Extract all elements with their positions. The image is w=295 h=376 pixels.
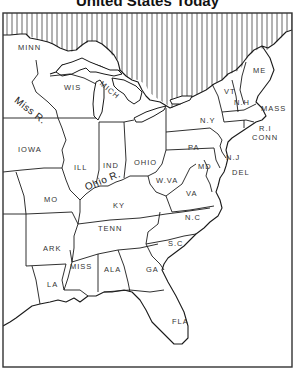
eastern-us-map <box>0 0 295 376</box>
state-label-me: ME <box>253 67 266 75</box>
state-label-mass: MASS <box>261 105 286 113</box>
state-label-ny: N.Y <box>200 117 216 125</box>
state-label-wva: W.VA <box>156 177 178 185</box>
state-label-ohio: OHIO <box>134 159 157 167</box>
state-label-fla: FLA <box>172 318 189 326</box>
state-label-minn: MINN <box>18 44 41 52</box>
canada-hatched-region <box>3 13 292 108</box>
state-label-ky: KY <box>113 202 125 210</box>
state-label-del: DEL <box>232 169 250 177</box>
state-label-ri: R.I <box>259 125 272 133</box>
state-label-ga: GA <box>146 266 159 274</box>
state-label-pa: PA <box>188 144 199 152</box>
state-label-iowa: IOWA <box>18 146 42 154</box>
state-label-md: MD <box>198 163 212 171</box>
state-label-nh: N.H <box>234 99 250 107</box>
state-label-ala: ALA <box>104 266 121 274</box>
state-label-ill: ILL <box>74 164 87 172</box>
state-label-sc: S.C <box>168 240 184 248</box>
state-label-nc: N.C <box>185 214 201 222</box>
state-label-miss: MISS <box>70 263 92 271</box>
state-label-vt: VT <box>224 88 236 96</box>
map-body <box>3 13 292 344</box>
state-label-mo: MO <box>44 196 58 204</box>
state-label-ark: ARK <box>43 245 61 253</box>
state-label-la: LA <box>47 281 58 289</box>
state-label-nj: N.J <box>226 154 240 162</box>
lake-erie <box>134 106 166 122</box>
state-label-wis: WIS <box>64 84 81 92</box>
state-label-conn: CONN <box>252 134 278 142</box>
state-label-va: VA <box>186 190 197 198</box>
state-label-tenn: TENN <box>98 225 122 233</box>
lake-superior <box>56 58 122 76</box>
